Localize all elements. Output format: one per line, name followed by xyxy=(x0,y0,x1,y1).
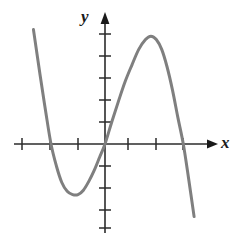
graph-canvas xyxy=(0,0,239,233)
y-axis-arrowhead xyxy=(101,12,110,24)
axis-group xyxy=(14,12,218,233)
x-axis-label: x xyxy=(221,134,230,151)
y-axis-label: y xyxy=(81,8,89,25)
cubic-function-graph: y x xyxy=(0,0,239,233)
cubic-curve xyxy=(33,30,194,217)
x-axis-arrowhead xyxy=(207,140,218,149)
